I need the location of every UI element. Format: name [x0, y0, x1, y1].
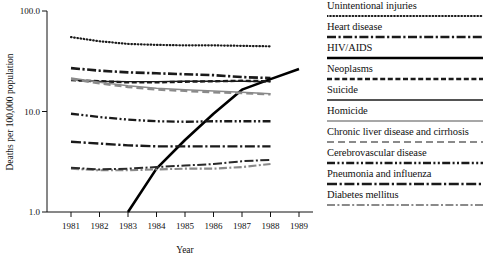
- y-tick-label: 10.0: [24, 107, 40, 117]
- x-tick-labels: 198119821983198419851986198719881989: [62, 221, 309, 231]
- data-series-group: [71, 37, 299, 212]
- legend-entry[interactable]: Chronic liver disease and cirrhosis: [327, 126, 483, 147]
- series-line: [71, 142, 271, 147]
- y-tick-labels: 100.010.01.0: [20, 6, 41, 217]
- legend-label: Cerebrovascular disease: [327, 147, 426, 159]
- series-line: [71, 37, 271, 46]
- legend-entry[interactable]: Unintentional injuries: [327, 0, 483, 21]
- legend-line-sample: [327, 14, 483, 18]
- x-tick-label: 1986: [205, 221, 224, 231]
- legend-label: HIV/AIDS: [327, 42, 372, 54]
- y-tick-label: 100.0: [20, 6, 41, 16]
- legend-line-sample: [327, 56, 483, 60]
- legend-label: Heart disease: [327, 21, 382, 33]
- legend-label: Neoplasms: [327, 63, 373, 75]
- legend-label: Chronic liver disease and cirrhosis: [327, 126, 469, 138]
- chart-svg: 100.010.01.0 Deaths per 100,000 populati…: [0, 0, 320, 263]
- legend-entry[interactable]: HIV/AIDS: [327, 42, 483, 63]
- legend-line-sample: [327, 119, 483, 123]
- chart-figure: 100.010.01.0 Deaths per 100,000 populati…: [0, 0, 483, 263]
- legend-entry[interactable]: Neoplasms: [327, 63, 483, 84]
- legend-line-sample: [327, 35, 483, 39]
- y-axis-title: Deaths per 100,000 population: [5, 53, 15, 170]
- x-tick-label: 1988: [262, 221, 281, 231]
- legend-label: Homicide: [327, 105, 368, 117]
- x-tick-label: 1983: [119, 221, 138, 231]
- legend-entry[interactable]: Cerebrovascular disease: [327, 147, 483, 168]
- legend-entry[interactable]: Diabetes mellitus: [327, 189, 483, 210]
- legend-entry[interactable]: Homicide: [327, 105, 483, 126]
- y-tick-label: 1.0: [29, 207, 41, 217]
- legend-label: Diabetes mellitus: [327, 189, 399, 201]
- legend-line-sample: [327, 203, 483, 207]
- x-tick-label: 1984: [148, 221, 167, 231]
- legend-entry[interactable]: Pneumonia and influenza: [327, 168, 483, 189]
- x-tick-label: 1989: [290, 221, 309, 231]
- legend-label: Unintentional injuries: [327, 0, 417, 12]
- legend-label: Suicide: [327, 84, 358, 96]
- x-tick-label: 1982: [91, 221, 109, 231]
- series-line: [71, 68, 271, 78]
- x-tick-label: 1987: [233, 221, 252, 231]
- legend-line-sample: [327, 98, 483, 102]
- x-axis: 198119821983198419851986198719881989 Yea…: [47, 212, 313, 255]
- legend-line-sample: [327, 140, 483, 144]
- legend-line-sample: [327, 182, 483, 186]
- x-tick-label: 1985: [176, 221, 195, 231]
- legend-label: Pneumonia and influenza: [327, 168, 431, 180]
- y-ticks: [42, 11, 47, 212]
- chart-legend: Unintentional injuriesHeart diseaseHIV/A…: [327, 0, 483, 263]
- series-line: [71, 114, 271, 122]
- legend-entry[interactable]: Suicide: [327, 84, 483, 105]
- x-axis-title: Year: [176, 245, 194, 255]
- legend-entry[interactable]: Heart disease: [327, 21, 483, 42]
- y-axis: 100.010.01.0 Deaths per 100,000 populati…: [5, 6, 47, 217]
- plot-area: 100.010.01.0 Deaths per 100,000 populati…: [0, 0, 320, 263]
- legend-line-sample: [327, 161, 483, 165]
- legend-line-sample: [327, 77, 483, 81]
- x-tick-label: 1981: [62, 221, 80, 231]
- x-ticks: [71, 212, 299, 217]
